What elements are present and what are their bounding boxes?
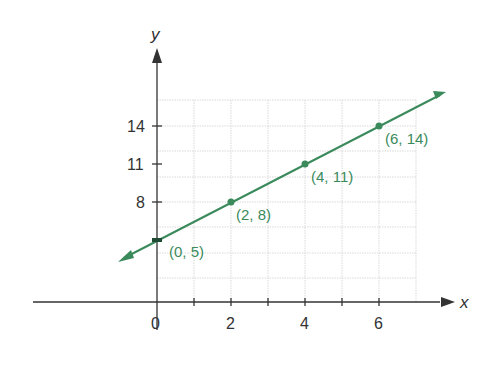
x-tick-6: 6 [374, 315, 383, 332]
x-tick-0: 0 [151, 315, 160, 332]
point-label-2: (4, 11) [311, 168, 353, 185]
x-tick-4: 4 [300, 315, 309, 332]
x-axis-label: x [459, 293, 469, 312]
point-label-1: (2, 8) [236, 206, 271, 223]
point-label-0: (0, 5) [169, 243, 204, 260]
point-4-11 [302, 161, 309, 168]
point-2-8 [228, 199, 235, 206]
y-axis-arrow-icon [152, 48, 162, 63]
point-label-3: (6, 14) [385, 130, 428, 147]
x-tick-2: 2 [226, 315, 235, 332]
chart-canvas: x y 0 2 4 6 14 11 8 (0, 5) (2, 8) (4, 11… [0, 0, 495, 369]
y-tick-8: 8 [136, 194, 145, 211]
y-axis-label: y [150, 25, 161, 44]
line-arrow-left-icon [118, 250, 134, 262]
y-tick-14: 14 [127, 118, 145, 135]
grid [157, 100, 416, 302]
point-6-14 [376, 123, 383, 130]
point-0-5 [152, 238, 162, 242]
y-tick-11: 11 [127, 156, 144, 173]
x-axis [33, 298, 440, 306]
x-axis-arrow-icon [441, 297, 455, 307]
